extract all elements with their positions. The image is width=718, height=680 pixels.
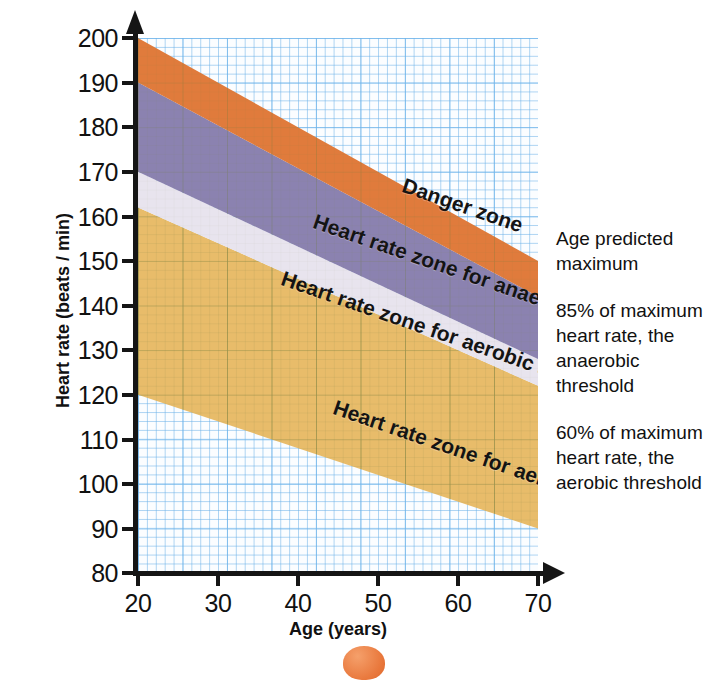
annotation-aerobic-threshold: 60% of maximum heart rate, the aerobic t…: [556, 420, 714, 495]
y-tick-160: [122, 215, 138, 219]
y-tick-150: [122, 259, 138, 263]
x-tick-40: [296, 571, 300, 586]
y-tick-label-90: 90: [48, 515, 118, 544]
x-tick-70: [536, 571, 540, 586]
x-tick-30: [216, 571, 220, 586]
decorative-blob: [343, 646, 385, 680]
y-tick-130: [122, 348, 138, 352]
x-tick-label-30: 30: [188, 589, 248, 618]
x-tick-60: [456, 571, 460, 586]
y-tick-120: [122, 393, 138, 397]
y-axis-line: [133, 30, 138, 576]
y-tick-140: [122, 304, 138, 308]
x-axis-line: [133, 571, 551, 576]
y-axis-title: Heart rate (beats / min): [53, 171, 74, 451]
x-tick-label-40: 40: [268, 589, 328, 618]
y-tick-label-100: 100: [48, 470, 118, 499]
x-tick-label-50: 50: [348, 589, 408, 618]
annotation-anaerobic-threshold: 85% of maximum heart rate, the anaerobic…: [556, 298, 714, 398]
y-tick-label-80: 80: [48, 559, 118, 588]
y-tick-label-190: 190: [48, 69, 118, 98]
y-tick-label-200: 200: [48, 24, 118, 53]
x-tick-20: [136, 571, 140, 586]
plot-area: Danger zone Heart rate zone for anaerobi…: [138, 38, 538, 573]
x-tick-label-60: 60: [428, 589, 488, 618]
y-tick-100: [122, 482, 138, 486]
y-tick-170: [122, 170, 138, 174]
y-axis-arrow-icon: [126, 10, 144, 34]
x-tick-label-20: 20: [108, 589, 168, 618]
x-tick-50: [376, 571, 380, 586]
annotations-panel: Age predicted maximum 85% of maximum hea…: [556, 226, 714, 517]
y-tick-90: [122, 527, 138, 531]
y-tick-110: [122, 438, 138, 442]
x-tick-label-70: 70: [508, 589, 568, 618]
y-tick-label-180: 180: [48, 113, 118, 142]
y-tick-190: [122, 81, 138, 85]
y-tick-200: [122, 36, 138, 40]
x-axis-arrow-icon: [543, 562, 565, 584]
y-tick-180: [122, 125, 138, 129]
annotation-age-predicted-maximum: Age predicted maximum: [556, 226, 714, 276]
x-axis-title: Age (years): [138, 619, 538, 640]
